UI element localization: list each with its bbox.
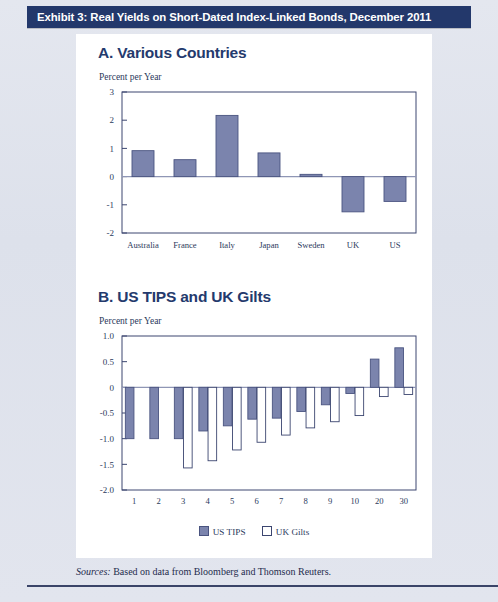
panel-a-bar (132, 151, 154, 177)
panel-b-xtick: 4 (206, 496, 211, 506)
panel-b-legend: US TIPS UK Gilts (76, 526, 432, 537)
panel-b-xtick: 7 (279, 496, 284, 506)
panel-b-bar (346, 387, 355, 393)
panel-a-ytick: -1 (107, 200, 115, 210)
panel-b-xtick: 9 (328, 496, 332, 506)
exhibit-title-bar: Exhibit 3: Real Yields on Short-Dated In… (27, 6, 471, 28)
panel-b-chart: 1.00.50-0.5-1.0-1.5-2.0123456789102030 (76, 330, 432, 520)
panel-a-bar (174, 160, 196, 177)
panel-b-ytick: 0.5 (103, 357, 115, 367)
panel-b-ytick: -0.5 (100, 408, 115, 418)
panel-a-xtick: Japan (259, 240, 279, 250)
panel-a-xtick: UK (347, 240, 360, 250)
panel-a-ytick: -2 (107, 228, 115, 238)
panel-b-ytick: -2.0 (100, 485, 115, 495)
panel-b-bar (380, 387, 389, 396)
panel-a-bar (258, 153, 280, 177)
panel-b-xtick: 1 (132, 496, 136, 506)
panel-b-xtick: 8 (304, 496, 308, 506)
panel-b-heading: B. US TIPS and UK Gilts (98, 288, 271, 306)
panel-b-svg: 1.00.50-0.5-1.0-1.5-2.0123456789102030 (76, 330, 432, 520)
panel-a-chart: 3210-1-2AustraliaFranceItalyJapanSwedenU… (76, 86, 432, 261)
panel-b-ytick: 0 (110, 383, 115, 393)
panel-b-ytick: -1.5 (100, 460, 115, 470)
panel-b-bar (395, 348, 404, 388)
legend-item-uk-gilts: UK Gilts (262, 526, 309, 537)
panel-a-axis-title: Percent per Year (99, 72, 162, 82)
legend-swatch-filled-icon (199, 526, 209, 536)
panel-b-bar (199, 387, 208, 431)
sources-text: Based on data from Bloomberg and Thomson… (113, 566, 331, 577)
panel-b-bar (184, 387, 193, 468)
panel-b-bar (355, 387, 364, 415)
panel-a-heading: A. Various Countries (98, 44, 246, 62)
panel-a-bar (216, 115, 238, 176)
panel-b-bar (208, 387, 217, 460)
legend-label-us-tips: US TIPS (213, 527, 246, 537)
panel-b-xtick: 10 (350, 496, 359, 506)
panel-b-bar (248, 387, 257, 419)
panel-a-ytick: 2 (110, 115, 115, 125)
panel-b-xtick: 2 (157, 496, 161, 506)
panel-b-bar (331, 387, 340, 421)
panel-b-bar (223, 387, 232, 425)
panel-a-ytick: 1 (110, 144, 115, 154)
panel-a-svg: 3210-1-2AustraliaFranceItalyJapanSwedenU… (76, 86, 432, 261)
exhibit-title: Exhibit 3: Real Yields on Short-Dated In… (27, 11, 431, 23)
panel-b-bar (125, 387, 134, 438)
panel-b-bar (370, 359, 379, 387)
panel-b-bar (272, 387, 281, 418)
panel-b-xtick: 20 (375, 496, 384, 506)
panel-b-xtick: 5 (230, 496, 234, 506)
panel-a-bar (384, 177, 406, 202)
panel-b-bar (321, 387, 330, 404)
bottom-divider (27, 585, 498, 587)
sources-label: Sources: (76, 566, 111, 577)
panel-a-ytick: 0 (110, 172, 115, 182)
panel-a-bar (342, 177, 364, 212)
panel-b-xtick: 30 (399, 496, 408, 506)
panel-b-bar (404, 387, 413, 394)
panel-a-xtick: France (173, 240, 197, 250)
legend-swatch-hollow-icon (262, 526, 272, 536)
panel-b-xtick: 6 (255, 496, 260, 506)
panel-b-bar (233, 387, 242, 450)
panel-a-xtick: Sweden (297, 240, 325, 250)
content-panel: A. Various Countries Percent per Year 32… (76, 34, 432, 558)
panel-a-ytick: 3 (110, 87, 115, 97)
panel-b-bar (257, 387, 266, 442)
panel-b-bar (306, 387, 315, 428)
panel-b-bar (282, 387, 291, 435)
panel-a-xtick: Italy (219, 240, 235, 250)
panel-b-axis-title: Percent per Year (99, 316, 162, 326)
panel-b-bar (297, 387, 306, 411)
panel-b-ytick: -1.0 (100, 434, 115, 444)
panel-a-xtick: Australia (127, 240, 159, 250)
panel-a-xtick: US (390, 240, 401, 250)
legend-item-us-tips: US TIPS (199, 526, 246, 537)
legend-label-uk-gilts: UK Gilts (276, 527, 309, 537)
panel-b-bar (174, 387, 183, 438)
panel-b-ytick: 1.0 (103, 331, 115, 341)
sources-note: Sources: Based on data from Bloomberg an… (76, 566, 496, 577)
panel-b-xtick: 3 (181, 496, 185, 506)
panel-b-bar (150, 387, 159, 438)
panel-a-bar (300, 174, 322, 176)
